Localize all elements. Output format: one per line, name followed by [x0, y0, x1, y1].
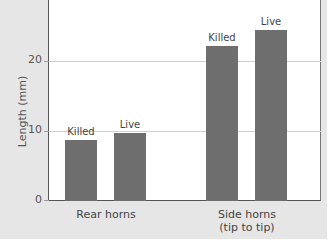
ytick-0	[44, 200, 49, 201]
bar-rear-killed	[65, 140, 97, 201]
bar-label-side-live: Live	[246, 16, 296, 27]
y-axis-label: Length (mm)	[16, 72, 29, 152]
x-category-side-line1: Side horns	[206, 208, 288, 221]
x-category-side-horns: Side horns (tip to tip)	[206, 208, 288, 234]
bar-label-rear-killed: Killed	[56, 126, 106, 137]
ytick-10	[44, 131, 49, 132]
bar-rear-live	[114, 133, 146, 201]
x-category-rear-line1: Rear horns	[66, 208, 146, 221]
x-category-rear-horns: Rear horns	[66, 208, 146, 221]
x-category-side-line2: (tip to tip)	[206, 221, 288, 234]
ytick-label-20: 20	[22, 53, 42, 66]
ytick-label-0: 0	[22, 193, 42, 206]
bar-label-rear-live: Live	[105, 119, 155, 130]
bar-side-live	[255, 30, 287, 201]
bar-label-side-killed: Killed	[197, 32, 247, 43]
ytick-20	[44, 61, 49, 62]
bar-side-killed	[206, 46, 238, 201]
